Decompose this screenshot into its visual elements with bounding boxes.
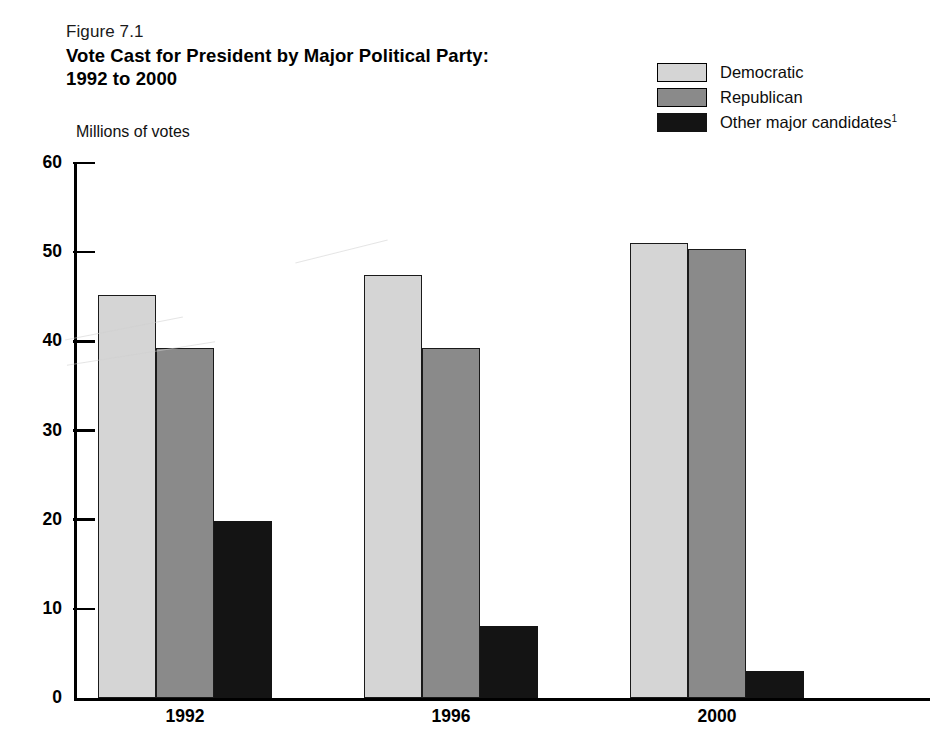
bar-2000-other[interactable]: [746, 671, 804, 698]
y-axis-tick-label: 60: [43, 154, 62, 172]
y-axis-tick-label: 30: [43, 422, 62, 440]
chart-title-line-2: 1992 to 2000: [66, 67, 606, 90]
legend-swatch-other: [657, 113, 707, 132]
legend-swatch-republican: [657, 88, 707, 107]
bar-1996-other[interactable]: [480, 626, 538, 698]
chart-legend: Democratic Republican Other major candid…: [657, 60, 935, 135]
legend-item-other[interactable]: Other major candidates1: [657, 110, 935, 135]
legend-label-other: Other major candidates1: [720, 113, 897, 132]
y-axis-tick-label: 50: [43, 243, 62, 261]
legend-item-republican[interactable]: Republican: [657, 85, 935, 110]
bar-1996-democratic[interactable]: [364, 275, 422, 698]
y-axis-tick-labels: 0102030405060: [10, 163, 62, 698]
bar-2000-democratic[interactable]: [630, 243, 688, 698]
x-axis-tick-label-1996: 1996: [432, 706, 471, 727]
legend-label-other-text: Other major candidates: [720, 113, 892, 131]
bar-1992-republican[interactable]: [156, 348, 214, 698]
chart-title-line-1: Vote Cast for President by Major Politic…: [66, 45, 489, 66]
y-axis-tick-label: 40: [43, 333, 62, 351]
bar-1996-republican[interactable]: [422, 348, 480, 698]
legend-footnote-marker: 1: [892, 113, 898, 124]
x-axis-tick-labels: 199219962000: [74, 706, 930, 740]
x-axis-tick-label-1992: 1992: [166, 706, 205, 727]
y-axis-tick-label: 20: [43, 511, 62, 529]
legend-label-democratic: Democratic: [720, 63, 803, 82]
y-axis-unit-label: Millions of votes: [76, 123, 190, 141]
x-axis-line: [74, 698, 930, 701]
figure-header: Figure 7.1 Vote Cast for President by Ma…: [66, 22, 626, 90]
y-axis-tick-label: 10: [43, 600, 62, 618]
legend-swatch-democratic: [657, 63, 707, 82]
figure-number: Figure 7.1: [66, 22, 626, 42]
y-axis-tick-label: 0: [52, 689, 62, 707]
x-axis-tick-label-2000: 2000: [698, 706, 737, 727]
legend-item-democratic[interactable]: Democratic: [657, 60, 935, 85]
chart-plot-area: 0102030405060: [74, 163, 930, 698]
bar-1992-democratic[interactable]: [98, 295, 156, 698]
bar-2000-republican[interactable]: [688, 249, 746, 698]
legend-label-republican: Republican: [720, 88, 803, 107]
page-title: Vote Cast for President by Major Politic…: [66, 44, 606, 90]
bars-layer: [74, 163, 930, 698]
bar-1992-other[interactable]: [214, 521, 272, 698]
